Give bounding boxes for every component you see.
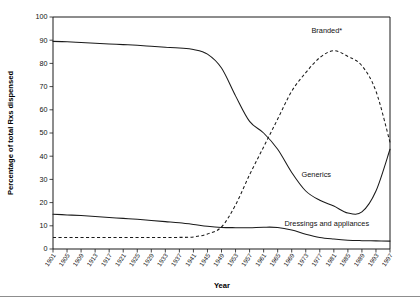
x-tick-label: 1989 bbox=[352, 252, 366, 268]
plot-border bbox=[53, 17, 390, 249]
x-tick-label: 1997 bbox=[380, 252, 394, 268]
series-annotations: Branded*GenericsDressings and appliances bbox=[284, 26, 369, 228]
x-tick-label: 1913 bbox=[85, 252, 99, 268]
figure-container: 0102030405060708090100 19011905190919131… bbox=[0, 0, 420, 303]
x-tick-label: 1949 bbox=[212, 252, 226, 268]
x-tick-label: 1957 bbox=[240, 252, 254, 268]
x-axis-ticks: 1901190519091913191719211925192919331937… bbox=[43, 249, 394, 268]
annotation-branded: Branded* bbox=[311, 26, 342, 35]
x-tick-label: 1917 bbox=[99, 252, 113, 268]
x-tick-label: 1905 bbox=[57, 252, 71, 268]
x-tick-label: 1945 bbox=[198, 252, 212, 268]
y-tick-label: 20 bbox=[40, 198, 48, 207]
x-tick-label: 1977 bbox=[310, 252, 324, 268]
plot-frame bbox=[53, 17, 390, 249]
x-tick-label: 1973 bbox=[296, 252, 310, 268]
x-tick-label: 1937 bbox=[169, 252, 183, 268]
x-tick-label: 1981 bbox=[324, 252, 338, 268]
series-lines bbox=[53, 41, 390, 241]
footer-divider bbox=[0, 296, 420, 297]
y-tick-label: 10 bbox=[40, 221, 48, 230]
y-tick-label: 90 bbox=[40, 36, 48, 45]
y-tick-label: 60 bbox=[40, 105, 48, 114]
series-line-generics bbox=[53, 41, 390, 214]
x-tick-label: 1961 bbox=[254, 252, 268, 268]
x-tick-label: 1929 bbox=[141, 252, 155, 268]
x-tick-label: 1993 bbox=[366, 252, 380, 268]
annotation-dressings-and-appliances: Dressings and appliances bbox=[284, 219, 369, 228]
x-tick-label: 1969 bbox=[282, 252, 296, 268]
y-axis-ticks: 0102030405060708090100 bbox=[36, 12, 54, 253]
x-tick-label: 1925 bbox=[127, 252, 141, 268]
x-tick-label: 1909 bbox=[71, 252, 85, 268]
x-axis-title: Year bbox=[214, 281, 230, 290]
y-tick-label: 70 bbox=[40, 82, 48, 91]
y-tick-label: 50 bbox=[40, 128, 48, 137]
x-tick-label: 1953 bbox=[226, 252, 240, 268]
y-tick-label: 0 bbox=[44, 244, 48, 253]
x-tick-label: 1933 bbox=[155, 252, 169, 268]
y-axis-title: Percentage of total Rxs dispensed bbox=[6, 71, 15, 195]
x-tick-label: 1985 bbox=[338, 252, 352, 268]
x-tick-label: 1965 bbox=[268, 252, 282, 268]
line-chart: 0102030405060708090100 19011905190919131… bbox=[0, 0, 420, 303]
x-tick-label: 1901 bbox=[43, 252, 57, 268]
y-tick-label: 100 bbox=[36, 12, 48, 21]
annotation-generics: Generics bbox=[301, 170, 331, 179]
y-tick-label: 40 bbox=[40, 152, 48, 161]
x-tick-label: 1941 bbox=[183, 252, 197, 268]
x-tick-label: 1921 bbox=[113, 252, 127, 268]
y-tick-label: 80 bbox=[40, 59, 48, 68]
y-tick-label: 30 bbox=[40, 175, 48, 184]
